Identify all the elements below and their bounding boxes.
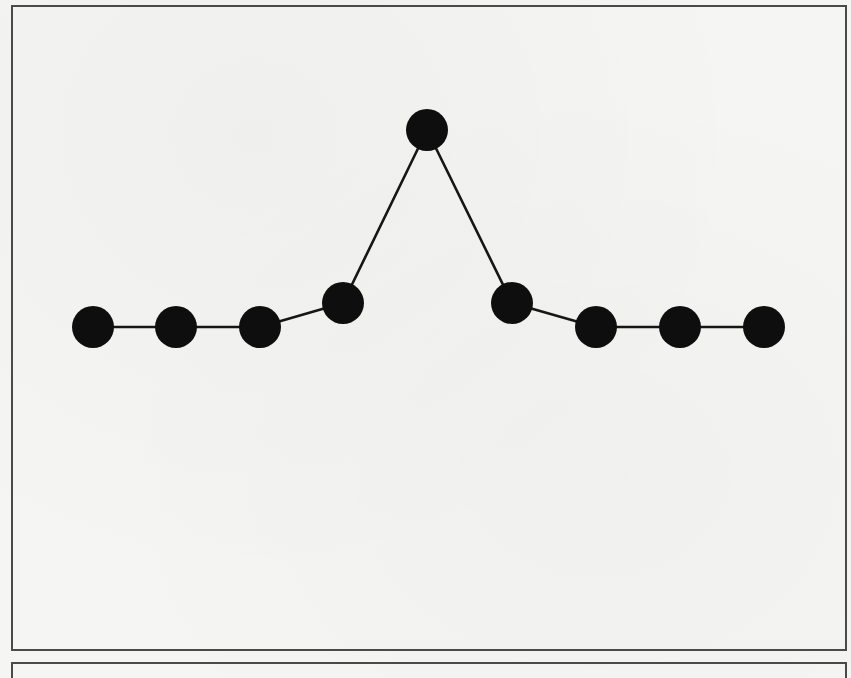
graph-node-n9 [743,306,785,348]
graph-diagram [0,0,851,678]
graph-node-n3 [239,306,281,348]
graph-node-n1 [72,306,114,348]
graph-edges [93,130,764,327]
graph-node-n8 [659,306,701,348]
graph-edge-n4-n5 [343,130,427,303]
page [0,0,851,678]
graph-node-n7 [575,306,617,348]
graph-node-n5 [406,109,448,151]
graph-node-n2 [155,306,197,348]
graph-edge-n5-n6 [427,130,512,303]
graph-node-n4 [322,282,364,324]
graph-nodes [72,109,785,348]
graph-node-n6 [491,282,533,324]
